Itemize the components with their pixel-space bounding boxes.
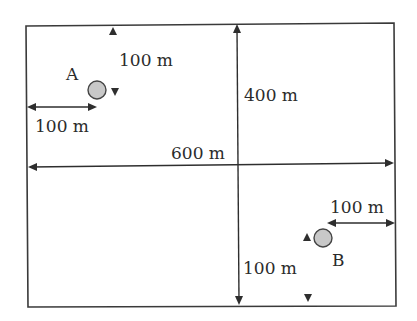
- arrowhead-right-icon: [385, 159, 394, 167]
- point-b-right-offset-label: 100 m: [330, 197, 384, 217]
- width-label: 600 m: [171, 143, 225, 163]
- point-a-left-offset-label: 100 m: [35, 116, 89, 136]
- arrowhead-up-icon: [233, 24, 241, 33]
- point-b: [303, 229, 332, 302]
- point-a-down-marker-icon: [111, 88, 119, 96]
- point-a-left-offset-arrow: [27, 103, 97, 111]
- point-a-marker: [88, 81, 106, 99]
- arrowhead-left-icon: [27, 103, 36, 111]
- point-a: [88, 27, 119, 99]
- arrowhead-left-icon: [28, 163, 37, 171]
- point-b-bottom-offset-label: 100 m: [243, 258, 297, 278]
- point-b-right-offset-arrow: [327, 219, 395, 227]
- point-a-top-offset-label: 100 m: [119, 50, 173, 70]
- arrowhead-right-icon: [88, 103, 97, 111]
- point-a-top-marker-icon: [109, 27, 117, 35]
- point-b-bottom-marker-icon: [304, 294, 312, 302]
- point-b-up-marker-icon: [303, 233, 311, 241]
- arrowhead-down-icon: [235, 296, 243, 305]
- arrowhead-right-icon: [386, 219, 395, 227]
- point-b-label: B: [332, 250, 345, 270]
- point-a-label: A: [65, 64, 79, 84]
- field-diagram: 400 m 600 m A 100 m 100 m B 100 m 100 m: [0, 0, 417, 321]
- height-label: 400 m: [244, 85, 298, 105]
- arrowhead-left-icon: [327, 219, 336, 227]
- point-b-marker: [314, 229, 332, 247]
